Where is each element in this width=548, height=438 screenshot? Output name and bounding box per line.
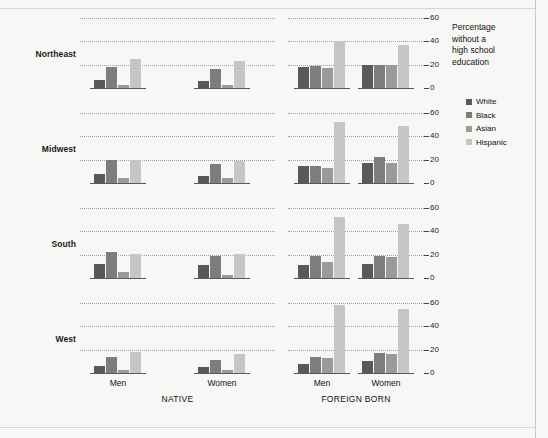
axis-baseline [358,373,414,374]
y-tick-mark-40 [424,326,429,327]
y-tick-label-40: 40 [430,131,450,140]
chart-figure: Northeast0204060Midwest0204060South02040… [0,0,548,438]
y-tick-mark-0 [424,373,429,374]
axis-baseline [294,183,350,184]
bar-hispanic [234,161,245,183]
y-tick-label-60: 60 [430,13,450,22]
y-tick-mark-20 [424,160,429,161]
bar-white [362,65,373,88]
plot-area [80,18,275,88]
bar-black [374,157,385,183]
bar-black [310,256,321,278]
group-label-women: Women [356,378,416,388]
axis-baseline [294,88,350,89]
plot-area [288,303,424,373]
bar-white [198,176,209,183]
bar-group-men [94,208,141,278]
bar-hispanic [234,254,245,279]
bar-asian [386,163,397,183]
bar-group-women [362,208,409,278]
legend-swatch-icon-hispanic [466,139,472,145]
region-row: South0204060 [0,208,548,303]
y-tick-label-0: 0 [430,83,450,92]
axis-baseline [194,373,250,374]
y-tick-mark-20 [424,255,429,256]
y-tick-mark-60 [424,18,429,19]
bar-hispanic [234,61,245,88]
bar-group-men [298,113,345,183]
axis-baseline [294,373,350,374]
panel-midwest-foreign-born: 0204060 [288,113,424,191]
bar-group-men [94,113,141,183]
bar-black [210,164,221,183]
bar-hispanic [334,217,345,278]
bar-hispanic [398,45,409,88]
bar-white [94,80,105,88]
legend-item-asian[interactable]: Asian [466,123,507,134]
bar-black [310,66,321,88]
y-tick-label-20: 20 [430,345,450,354]
bar-group-men [298,208,345,278]
y-tick-mark-40 [424,136,429,137]
axis-baseline [194,278,250,279]
axis-baseline [358,278,414,279]
bar-group-women [198,113,245,183]
legend-label: Hispanic [476,138,507,147]
axis-baseline [358,183,414,184]
legend-item-white[interactable]: White [466,96,507,107]
bar-asian [386,354,397,373]
bar-hispanic [398,224,409,278]
y-tick-mark-20 [424,65,429,66]
y-tick-mark-60 [424,113,429,114]
bar-white [94,264,105,278]
plot-area [288,113,424,183]
legend: WhiteBlackAsianHispanic [466,96,507,150]
bar-group-women [198,208,245,278]
bar-white [362,163,373,183]
bar-group-men [298,303,345,373]
plot-area [288,18,424,88]
axis-baseline [90,88,146,89]
bar-white [298,67,309,88]
y-tick-mark-0 [424,88,429,89]
y-tick-label-60: 60 [430,203,450,212]
bar-hispanic [234,354,245,373]
caption-line-3: education [452,57,540,69]
bar-white [362,361,373,373]
top-divider [0,8,536,9]
bar-black [210,256,221,278]
bar-asian [386,65,397,88]
axis-baseline [194,183,250,184]
section-label-foreign-born: FOREIGN BORN [288,394,424,404]
axis-baseline [90,183,146,184]
legend-item-hispanic[interactable]: Hispanic [466,137,507,148]
bar-group-men [298,18,345,88]
region-row: WestMenWomenNATIVE0204060MenWomenFOREIGN… [0,303,548,398]
axis-baseline [294,278,350,279]
bar-asian [322,262,333,278]
y-tick-mark-20 [424,350,429,351]
bar-black [310,166,321,184]
bar-group-women [362,113,409,183]
plot-area [288,208,424,278]
legend-label: Asian [476,124,496,133]
bar-hispanic [130,59,141,88]
bar-black [374,353,385,373]
bar-hispanic [334,41,345,88]
y-tick-label-0: 0 [430,368,450,377]
region-label-west: West [8,334,76,344]
legend-label: White [476,97,496,106]
panel-midwest-native [80,113,275,191]
bar-asian [386,257,397,278]
y-tick-label-40: 40 [430,321,450,330]
y-tick-label-40: 40 [430,36,450,45]
bar-black [374,65,385,88]
y-tick-label-60: 60 [430,108,450,117]
bar-black [106,160,117,183]
bar-black [106,357,117,373]
legend-swatch-icon-white [466,99,472,105]
legend-item-black[interactable]: Black [466,110,507,121]
section-label-native: NATIVE [80,394,275,404]
bar-hispanic [334,305,345,373]
bar-group-women [198,303,245,373]
